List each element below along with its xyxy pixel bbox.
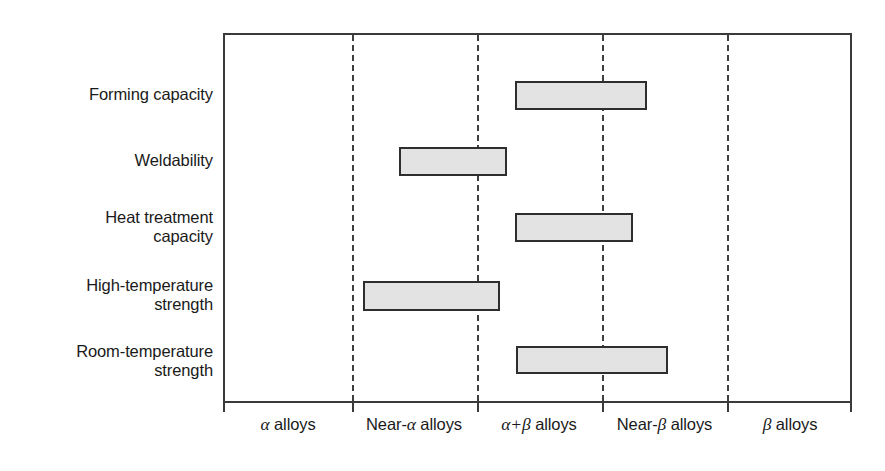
row-label-forming-capacity: Forming capacity xyxy=(89,85,213,104)
x-axis-tick-0 xyxy=(223,403,225,412)
row-label-room-temperature-strength: Room-temperature strength xyxy=(76,342,213,380)
gridline-4 xyxy=(727,35,729,401)
x-axis-label-near-alpha-alloys: Near-α alloys xyxy=(347,414,481,434)
bar-high-temperature-strength xyxy=(363,281,500,311)
x-axis-tick-1 xyxy=(352,403,354,412)
x-axis-label-near-beta-alloys: Near-β alloys xyxy=(598,414,731,434)
bar-heat-treatment-capacity xyxy=(515,213,633,242)
x-axis-label-0-suffix: alloys xyxy=(270,415,316,433)
bar-weldability xyxy=(399,147,507,176)
x-axis-label-3-suffix: alloys xyxy=(666,415,712,433)
x-axis-label-3-greek: β xyxy=(658,414,667,434)
x-axis-tick-3 xyxy=(602,403,604,412)
x-axis-tick-4 xyxy=(727,403,729,412)
row-label-weldability: Weldability xyxy=(135,151,213,170)
x-axis-tick-2 xyxy=(477,403,479,412)
x-axis-label-1-greek: α xyxy=(407,414,416,434)
x-axis-label-0-greek: α xyxy=(260,414,269,434)
x-axis-label-alpha-alloys: α alloys xyxy=(228,414,348,434)
gridline-1 xyxy=(352,35,354,401)
x-axis-label-beta-alloys: β alloys xyxy=(730,414,850,434)
x-axis-label-2-greek: α+β xyxy=(501,414,530,434)
row-label-heat-treatment-capacity: Heat treatment capacity xyxy=(105,208,213,246)
bar-room-temperature-strength xyxy=(516,346,668,374)
x-axis-label-alpha-beta-alloys: α+β alloys xyxy=(477,414,601,434)
x-axis-label-4-greek: β xyxy=(763,414,772,434)
x-axis-label-1-suffix: alloys xyxy=(416,415,462,433)
x-axis-label-2-suffix: alloys xyxy=(531,415,577,433)
chart-figure: Forming capacity Weldability Heat treatm… xyxy=(0,0,885,471)
x-axis-label-1-prefix: Near- xyxy=(366,415,407,433)
row-label-high-temperature-strength: High-temperature strength xyxy=(86,276,213,314)
gridline-2 xyxy=(477,35,479,401)
x-axis-label-3-prefix: Near- xyxy=(617,415,658,433)
x-axis-tick-5 xyxy=(850,403,852,412)
plot-frame xyxy=(223,33,852,403)
bar-forming-capacity xyxy=(515,81,647,110)
x-axis-label-4-suffix: alloys xyxy=(771,415,817,433)
